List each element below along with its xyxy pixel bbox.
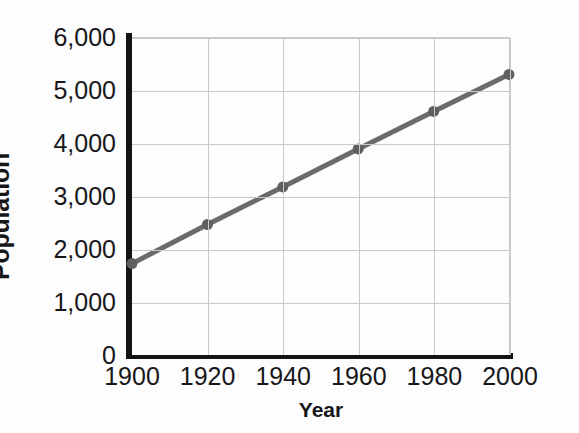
x-axis-tick-label: 2000 [455,362,565,391]
plot-area [132,37,510,355]
gridline-horizontal [132,250,509,251]
gridline-vertical [510,38,511,355]
y-axis-tick-label: 6,000 [0,23,116,52]
gridline-vertical [434,38,435,355]
gridline-horizontal [132,197,509,198]
gridline-horizontal [132,144,509,145]
series-line [132,74,509,263]
y-axis-tick-label: 3,000 [0,182,116,211]
gridline-horizontal [132,303,509,304]
data-point-marker [127,258,138,269]
gridline-vertical [208,38,209,355]
y-axis-tick-label: 5,000 [0,76,116,105]
gridline-horizontal [132,38,509,39]
gridline-horizontal [132,91,509,92]
y-axis-tick-label: 1,000 [0,288,116,317]
x-axis-title: Year [132,398,510,422]
y-axis-tick-label: 2,000 [0,235,116,264]
gridline-vertical [283,38,284,355]
y-axis-tick-label: 4,000 [0,129,116,158]
gridline-vertical [359,38,360,355]
data-point-marker [504,69,515,80]
line-chart: Population 01,0002,0003,0004,0005,0006,0… [0,0,579,433]
